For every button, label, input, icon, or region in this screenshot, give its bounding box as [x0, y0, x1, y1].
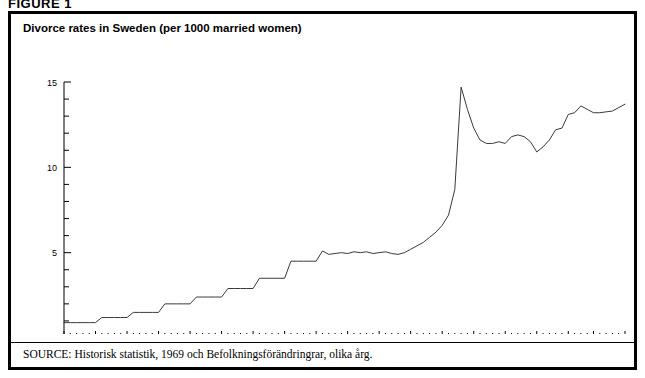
x-axis: 1911191619211926193119361941194619511956…	[54, 331, 634, 334]
figure-box: Divorce rates in Sweden (per 1000 marrie…	[8, 11, 637, 370]
source-label: SOURCE:	[23, 348, 72, 360]
source-note: SOURCE: Historisk statistik, 1969 och Be…	[23, 348, 372, 360]
figure-label: FIGURE 1	[8, 0, 72, 11]
y-axis: 051015	[47, 78, 71, 335]
source-divider	[11, 342, 634, 343]
y-tick-label: 10	[47, 163, 57, 173]
y-tick-label: 15	[47, 78, 57, 88]
data-series	[64, 87, 625, 323]
source-text: Historisk statistik, 1969 och Befolkning…	[72, 348, 373, 360]
chart-title: Divorce rates in Sweden (per 1000 marrie…	[23, 22, 302, 34]
y-tick-label: 5	[52, 248, 57, 258]
divorce-rate-line-chart: 051015 191119161921192619311936194119461…	[11, 44, 634, 334]
series-line	[64, 87, 625, 323]
chart-plot-area: 051015 191119161921192619311936194119461…	[11, 44, 634, 334]
y-tick-label: 0	[52, 334, 57, 335]
